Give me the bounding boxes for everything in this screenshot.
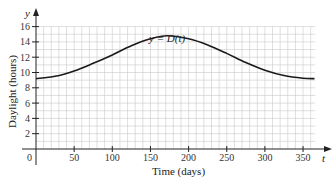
y-tick-label: 10 xyxy=(20,67,30,78)
x-axis-variable: t xyxy=(322,152,326,164)
y-tick-label: 14 xyxy=(20,36,30,47)
x-tick-label: 350 xyxy=(296,152,311,163)
x-axis-arrow-icon xyxy=(324,146,332,152)
x-tick-label: 100 xyxy=(105,152,120,163)
y-tick-label: 12 xyxy=(20,52,30,63)
y-tick-label: 6 xyxy=(25,98,30,109)
curve-label: y = D(t) xyxy=(148,32,185,45)
x-tick-label: 150 xyxy=(143,152,158,163)
grid xyxy=(36,27,315,149)
y-tick-label: 2 xyxy=(25,128,30,139)
y-axis-arrow-icon xyxy=(33,8,39,16)
x-tick-label: 250 xyxy=(219,152,234,163)
x-tick-label: 50 xyxy=(69,152,79,163)
y-tick-label: 4 xyxy=(25,113,30,124)
y-tick-label: 8 xyxy=(25,82,30,93)
y-axis-variable: y xyxy=(24,7,30,19)
origin-label: 0 xyxy=(27,152,32,163)
y-tick-label: 16 xyxy=(20,21,30,32)
x-axis-title: Time (days) xyxy=(152,165,205,178)
x-tick-label: 200 xyxy=(181,152,196,163)
daylight-chart: 50100150200250300350 246810121416 y t 0 … xyxy=(0,0,336,183)
y-axis-title: Daylight (hours) xyxy=(6,55,19,128)
x-tick-label: 300 xyxy=(257,152,272,163)
